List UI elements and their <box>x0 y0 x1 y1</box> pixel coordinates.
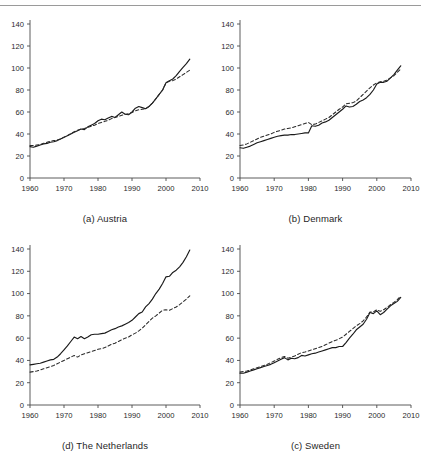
x-tick-label: 1990 <box>334 184 351 193</box>
panel-caption-austria: (a) Austria <box>0 213 210 224</box>
y-tick-label: 60 <box>226 108 234 117</box>
x-tick-label: 2000 <box>368 184 385 193</box>
y-tick-label: 80 <box>16 312 24 321</box>
panel-caption-sweden: (c) Sweden <box>210 440 421 451</box>
x-tick-label: 1990 <box>124 411 141 420</box>
series-line-solid <box>240 66 401 149</box>
x-tick-label: 1960 <box>22 411 39 420</box>
x-tick-label: 2010 <box>192 411 209 420</box>
figure-panel-grid: 0204060801001201401960197019801990200020… <box>0 10 421 462</box>
series-line-dashed <box>240 69 401 145</box>
x-tick-label: 1980 <box>90 411 107 420</box>
y-tick-label: 60 <box>16 108 24 117</box>
y-tick-label: 20 <box>16 379 24 388</box>
series-line-dashed <box>240 296 401 372</box>
series-line-solid <box>240 297 401 373</box>
y-tick-label: 100 <box>11 289 24 298</box>
chart-panel-sweden: 0204060801001201401960197019801990200020… <box>210 235 421 462</box>
panel-caption-denmark: (b) Denmark <box>210 213 421 224</box>
y-tick-label: 140 <box>221 245 234 254</box>
y-tick-label: 100 <box>221 64 234 73</box>
y-tick-label: 140 <box>221 20 234 29</box>
series-line-dashed <box>30 70 190 145</box>
y-tick-label: 40 <box>16 356 24 365</box>
y-tick-label: 40 <box>16 130 24 139</box>
y-tick-label: 100 <box>221 289 234 298</box>
y-tick-label: 40 <box>226 130 234 139</box>
y-tick-label: 0 <box>20 174 24 183</box>
x-tick-label: 1980 <box>300 411 317 420</box>
y-tick-label: 80 <box>226 86 234 95</box>
series-line-solid <box>30 250 190 365</box>
y-tick-label: 80 <box>226 312 234 321</box>
series-line-dashed <box>30 296 190 372</box>
top-divider-rule <box>0 5 421 6</box>
y-tick-label: 80 <box>16 86 24 95</box>
y-tick-label: 100 <box>11 64 24 73</box>
y-tick-label: 120 <box>11 267 24 276</box>
x-tick-label: 1970 <box>266 184 283 193</box>
y-tick-label: 60 <box>16 334 24 343</box>
y-tick-label: 140 <box>11 245 24 254</box>
y-tick-label: 20 <box>226 152 234 161</box>
x-tick-label: 1960 <box>232 184 249 193</box>
x-tick-label: 1980 <box>90 184 107 193</box>
chart-panel-denmark: 0204060801001201401960197019801990200020… <box>210 10 421 235</box>
y-tick-label: 20 <box>16 152 24 161</box>
chart-panel-austria: 0204060801001201401960197019801990200020… <box>0 10 210 235</box>
panel-caption-netherlands: (d) The Netherlands <box>0 440 210 451</box>
plot-svg-netherlands: 0204060801001201401960197019801990200020… <box>0 235 210 437</box>
plot-svg-sweden: 0204060801001201401960197019801990200020… <box>210 235 421 437</box>
y-tick-label: 140 <box>11 20 24 29</box>
x-tick-label: 1980 <box>300 184 317 193</box>
y-tick-label: 60 <box>226 334 234 343</box>
x-tick-label: 1970 <box>56 184 73 193</box>
x-tick-label: 1970 <box>266 411 283 420</box>
y-tick-label: 0 <box>20 401 24 410</box>
x-tick-label: 2000 <box>368 411 385 420</box>
y-tick-label: 40 <box>226 356 234 365</box>
y-tick-label: 0 <box>230 174 234 183</box>
x-tick-label: 2000 <box>158 184 175 193</box>
series-line-solid <box>30 59 190 147</box>
x-tick-label: 2010 <box>192 184 209 193</box>
x-tick-label: 2000 <box>158 411 175 420</box>
x-tick-label: 2010 <box>403 411 420 420</box>
chart-panel-netherlands: 0204060801001201401960197019801990200020… <box>0 235 210 462</box>
y-tick-label: 120 <box>221 267 234 276</box>
x-tick-label: 1960 <box>22 184 39 193</box>
x-tick-label: 2010 <box>403 184 420 193</box>
y-tick-label: 120 <box>221 42 234 51</box>
x-tick-label: 1960 <box>232 411 249 420</box>
y-tick-label: 120 <box>11 42 24 51</box>
y-tick-label: 20 <box>226 379 234 388</box>
plot-svg-denmark: 0204060801001201401960197019801990200020… <box>210 10 421 210</box>
y-tick-label: 0 <box>230 401 234 410</box>
x-tick-label: 1970 <box>56 411 73 420</box>
x-tick-label: 1990 <box>124 184 141 193</box>
x-tick-label: 1990 <box>334 411 351 420</box>
plot-svg-austria: 0204060801001201401960197019801990200020… <box>0 10 210 210</box>
